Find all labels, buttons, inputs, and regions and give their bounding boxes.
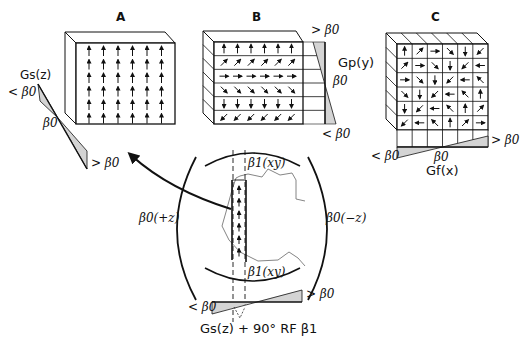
panel-a-mid-label: β0	[43, 117, 58, 129]
panel-a-low-label: < β0	[8, 86, 36, 98]
top-field-label: β1(xy)	[248, 157, 285, 169]
panel-b-block	[203, 31, 325, 124]
panel-b-gradient-label: Gp(y)	[338, 56, 374, 69]
panel-b-high-label: > β0	[311, 24, 339, 36]
panel-c-title: C	[431, 11, 440, 23]
center-head-diagram	[177, 150, 327, 322]
panel-c-high-label: > β0	[491, 134, 519, 146]
bottom-field-label: β1(xy)	[248, 266, 285, 278]
panel-b-mid-label: β0	[333, 75, 348, 87]
center-gradient-high-label: > β0	[306, 288, 334, 300]
curved-arrow-to-panel-a	[132, 156, 231, 209]
panel-b-low-label: < β0	[322, 128, 350, 140]
panel-c-block	[386, 33, 488, 147]
left-field-label: β0(+z)	[139, 212, 179, 224]
panel-c-mid-label: β0	[434, 151, 449, 163]
panel-a-title: A	[116, 11, 125, 23]
panel-c-gradient-label: Gf(x)	[426, 164, 459, 177]
panel-c-low-label: < β0	[371, 150, 399, 162]
center-gradient-low-label: < β0	[188, 301, 216, 313]
panel-a-block	[65, 32, 175, 124]
panel-a-high-label: > β0	[91, 157, 119, 169]
center-gradient-wedge	[212, 290, 302, 318]
right-field-label: β0(−z)	[326, 212, 366, 224]
panel-b-title: B	[252, 11, 261, 23]
panel-a-gradient-label: Gs(z)	[20, 69, 51, 81]
center-caption: Gs(z) + 90° RF β1	[200, 322, 317, 335]
